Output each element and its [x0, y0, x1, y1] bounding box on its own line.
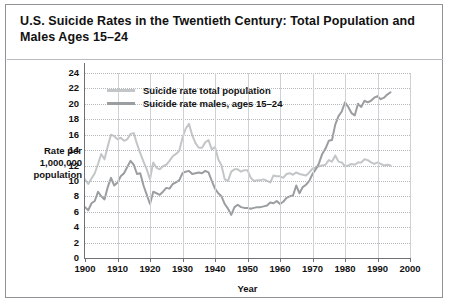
x-tick-mark	[85, 258, 86, 262]
y-tick-label: 16	[39, 129, 79, 140]
x-tick-mark	[248, 258, 249, 262]
y-tick-label: 12	[39, 160, 79, 171]
y-tick-label: 8	[39, 190, 79, 201]
legend-label: Suicide rate males, ages 15–24	[143, 98, 282, 109]
legend-item: Suicide rate total population	[107, 85, 282, 96]
y-tick-label: 6	[39, 206, 79, 217]
x-tick-mark	[215, 258, 216, 262]
y-tick-label: 20	[39, 98, 79, 109]
x-tick-mark	[345, 258, 346, 262]
x-tick-mark	[313, 258, 314, 262]
gridline-vertical	[378, 73, 379, 258]
y-axis-line	[84, 63, 85, 259]
x-axis-label: Year	[85, 283, 410, 294]
y-tick-label: 24	[39, 67, 79, 78]
gridline-vertical	[313, 73, 314, 258]
x-tick-mark	[280, 258, 281, 262]
y-tick-label: 14	[39, 144, 79, 155]
x-tick-mark	[183, 258, 184, 262]
gridline-vertical	[345, 73, 346, 258]
chart-legend: Suicide rate total populationSuicide rat…	[107, 85, 282, 111]
legend-swatch	[107, 102, 135, 105]
title-divider	[7, 59, 443, 60]
chart-frame: U.S. Suicide Rates in the Twentieth Cent…	[5, 4, 443, 298]
plot-area: 0246810121416182022241900191019201930194…	[85, 73, 410, 258]
y-tick-label: 18	[39, 113, 79, 124]
chart-title: U.S. Suicide Rates in the Twentieth Cent…	[20, 13, 430, 45]
x-tick-mark	[118, 258, 119, 262]
y-tick-label: 0	[39, 252, 79, 263]
y-tick-label: 2	[39, 237, 79, 248]
x-tick-mark	[378, 258, 379, 262]
y-tick-label: 4	[39, 221, 79, 232]
x-tick-label: 2000	[388, 263, 432, 274]
gridline-vertical	[410, 73, 411, 258]
legend-item: Suicide rate males, ages 15–24	[107, 98, 282, 109]
legend-label: Suicide rate total population	[143, 85, 271, 96]
legend-swatch	[107, 89, 135, 92]
y-tick-label: 10	[39, 175, 79, 186]
y-tick-label: 22	[39, 82, 79, 93]
x-tick-mark	[150, 258, 151, 262]
x-tick-mark	[410, 258, 411, 262]
